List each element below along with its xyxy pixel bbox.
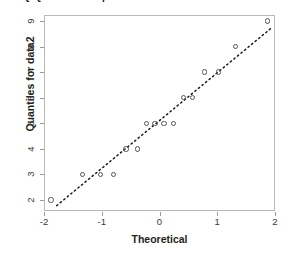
data-point	[171, 121, 176, 126]
y-tick-label: 2	[24, 195, 37, 205]
plot-frame	[44, 15, 275, 211]
y-axis-tick	[40, 21, 44, 22]
y-axis-tick	[40, 149, 44, 150]
y-tick-label: 8	[24, 42, 37, 52]
x-tick-label: 0	[150, 216, 170, 227]
y-axis-tick	[40, 174, 44, 175]
y-axis-tick	[40, 98, 44, 99]
data-point	[123, 146, 128, 151]
y-tick-label: 6	[24, 93, 37, 103]
data-point	[202, 69, 207, 74]
y-axis-tick	[40, 123, 44, 124]
x-tick-label: -2	[34, 216, 54, 227]
y-tick-label: 7	[24, 67, 37, 77]
data-point	[135, 146, 140, 151]
y-axis-tick	[40, 47, 44, 48]
y-axis-tick	[40, 200, 44, 201]
x-tick-label: -1	[92, 216, 112, 227]
x-axis-title: Theoretical	[44, 233, 275, 245]
x-tick-label: 1	[207, 216, 227, 227]
x-tick-label: 2	[265, 216, 285, 227]
data-point	[161, 121, 166, 126]
y-tick-label: 9	[24, 16, 37, 26]
qq-plot-figure: Q-Q Plot of Sample Data versus Standard …	[0, 0, 288, 257]
y-tick-label: 3	[24, 169, 37, 179]
plot-title: Q-Q Plot of Sample Data versus Standard …	[0, 0, 288, 3]
data-point	[111, 172, 116, 177]
data-point	[216, 69, 221, 74]
y-tick-label: 4	[24, 144, 37, 154]
y-tick-label: 5	[24, 118, 37, 128]
y-axis-title: Quantiles for data2	[24, 4, 36, 164]
data-point	[48, 197, 53, 202]
y-axis-tick	[40, 72, 44, 73]
data-point	[152, 121, 157, 126]
data-point	[265, 18, 270, 23]
